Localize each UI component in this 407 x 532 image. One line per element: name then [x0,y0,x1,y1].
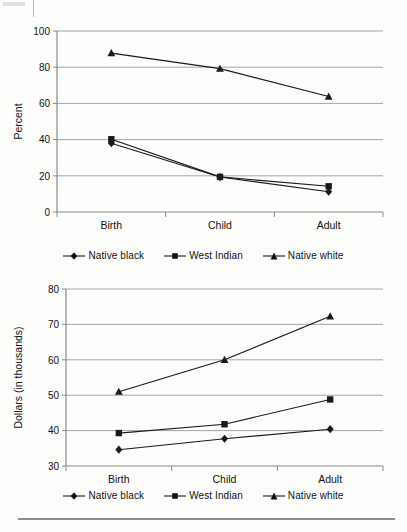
square-marker-icon [164,251,186,261]
legend-label-native-black: Native black [88,250,144,261]
x-tick-label: Adult [317,219,341,231]
chart-percent: 020406080100PercentBirthChildAdult Nativ… [0,18,407,276]
chart-dollars-legend: Native black West Indian Native white [0,490,407,501]
legend-item-native-black[interactable]: Native black [63,250,144,261]
legend-item-native-white[interactable]: Native white [263,490,344,501]
y-axis-title: Percent [12,103,24,139]
y-tick-label: 50 [48,390,60,401]
series-line [119,399,330,433]
figure-page: 020406080100PercentBirthChildAdult Nativ… [0,0,407,532]
y-tick-label: 60 [48,355,60,366]
chart-dollars: 304050607080Dollars (in thousands)BirthC… [0,282,407,512]
y-tick-label: 80 [48,284,60,295]
diamond-marker-icon [115,446,122,454]
diamond-marker-icon [63,491,85,501]
chart-percent-legend: Native black West Indian Native white [0,250,407,261]
square-marker-icon [221,421,227,427]
legend-label-native-black: Native black [88,490,144,501]
triangle-marker-icon [263,491,285,501]
legend-label-native-white: Native white [288,490,344,501]
square-marker-icon [108,136,114,142]
square-marker-icon [164,491,186,501]
series-line [111,53,328,96]
y-tick-label: 70 [48,319,60,330]
legend-item-west-indian[interactable]: West Indian [164,250,243,261]
square-marker-icon [116,430,122,436]
legend-item-native-white[interactable]: Native white [263,250,344,261]
diamond-marker-icon [221,435,228,443]
triangle-marker-icon [263,251,285,261]
legend-label-native-white: Native white [288,250,344,261]
scan-artifact-mark [3,2,25,6]
y-tick-label: 20 [39,171,51,182]
y-tick-label: 0 [44,207,50,218]
y-tick-label: 40 [39,134,51,145]
legend-label-west-indian: West Indian [189,490,243,501]
diamond-marker-icon [327,425,334,433]
legend-item-west-indian[interactable]: West Indian [164,490,243,501]
triangle-marker-icon [107,49,115,56]
y-tick-label: 100 [33,26,50,37]
page-footer-rule [18,518,395,520]
y-tick-label: 60 [39,98,51,109]
x-tick-label: Birth [101,219,123,231]
series-line [119,316,330,391]
scan-artifact-rule [33,0,34,17]
legend-label-west-indian: West Indian [189,250,243,261]
diamond-marker-icon [63,251,85,261]
y-axis-title: Dollars (in thousands) [12,326,24,428]
square-marker-icon [327,396,333,402]
x-tick-label: Birth [108,473,130,485]
x-tick-label: Child [213,473,237,485]
chart-dollars-svg: 304050607080Dollars (in thousands)BirthC… [0,282,407,490]
x-tick-label: Adult [318,473,342,485]
y-tick-label: 40 [48,425,60,436]
chart-percent-svg: 020406080100PercentBirthChildAdult [0,18,407,248]
y-tick-label: 30 [48,461,60,472]
legend-item-native-black[interactable]: Native black [63,490,144,501]
square-marker-icon [217,174,223,180]
y-tick-label: 80 [39,62,51,73]
triangle-marker-icon [326,312,334,319]
square-marker-icon [325,183,331,189]
x-tick-label: Child [208,219,232,231]
